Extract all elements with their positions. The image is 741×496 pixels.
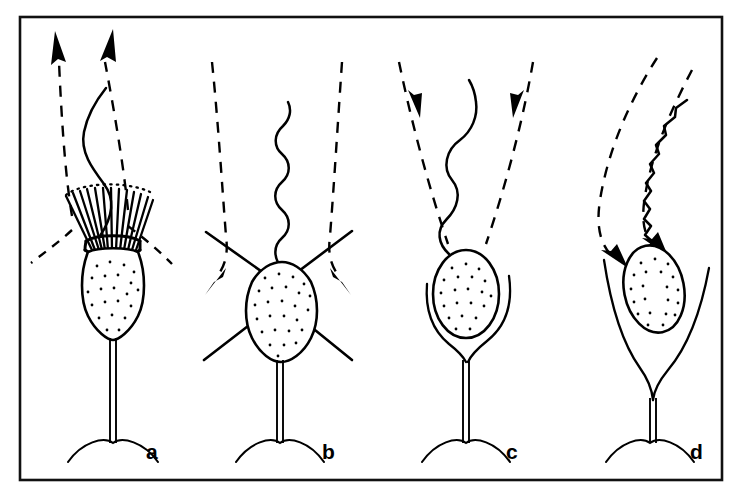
panel-label-b: b: [322, 440, 335, 463]
flagellated-cell-diagram: a: [0, 0, 741, 496]
figure-root: a: [0, 0, 741, 496]
panel-label-d: d: [690, 440, 703, 463]
panel-label-c: c: [506, 440, 518, 463]
cell-body-b: [246, 262, 317, 362]
collar-left-edge-a: [85, 241, 86, 250]
panel-label-a: a: [146, 440, 158, 463]
